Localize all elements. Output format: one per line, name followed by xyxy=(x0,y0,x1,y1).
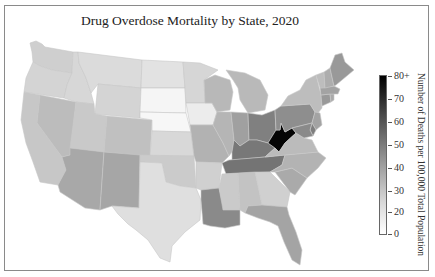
colorbar-title: Number of Deaths per 100,000 Total Popul… xyxy=(416,73,426,256)
state-AZ[interactable] xyxy=(58,148,104,210)
colorbar-tick-label: 50 xyxy=(394,140,404,150)
state-RI[interactable] xyxy=(330,94,334,102)
state-CT[interactable] xyxy=(321,94,331,106)
state-KS[interactable] xyxy=(150,131,194,157)
colorbar-tick xyxy=(388,212,392,213)
state-FL[interactable] xyxy=(245,205,302,265)
colorbar-tick xyxy=(388,145,392,146)
colorbar-tick-label: 80+ xyxy=(394,71,410,81)
colorbar xyxy=(379,75,387,235)
state-NM[interactable] xyxy=(100,152,140,210)
colorbar-tick-label: 20 xyxy=(394,207,404,217)
colorbar-tick-label: 60 xyxy=(394,117,404,127)
us-choropleth-map xyxy=(0,0,435,277)
colorbar-tick-label: 40 xyxy=(394,163,404,173)
state-SD[interactable] xyxy=(140,88,186,113)
colorbar-tick xyxy=(388,76,392,77)
colorbar-tick-label: 70 xyxy=(394,94,404,104)
colorbar-tick-label: 0 xyxy=(394,229,399,239)
colorbar-tick xyxy=(388,191,392,192)
state-MS[interactable] xyxy=(219,173,240,210)
colorbar-tick xyxy=(388,168,392,169)
state-WY[interactable] xyxy=(95,84,141,118)
colorbar-tick-label: 30 xyxy=(394,186,404,196)
state-IA[interactable] xyxy=(186,103,217,125)
state-ME[interactable] xyxy=(330,53,354,86)
colorbar-tick xyxy=(388,234,392,235)
state-ND[interactable] xyxy=(141,60,185,88)
colorbar-tick xyxy=(388,122,392,123)
state-CO[interactable] xyxy=(104,116,152,157)
colorbar-tick xyxy=(388,99,392,100)
state-AR[interactable] xyxy=(196,162,222,190)
